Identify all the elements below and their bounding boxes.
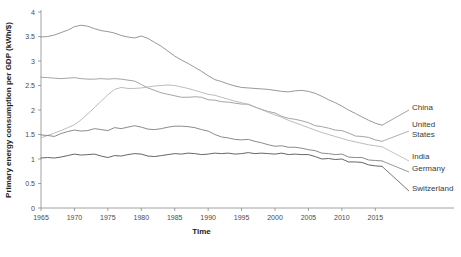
y-tick-label: 2: [31, 107, 35, 114]
series-line-india: [41, 85, 382, 147]
series-label-india: India: [412, 152, 430, 161]
x-tick-label: 1985: [167, 214, 183, 221]
y-tick-label: 4: [31, 9, 35, 16]
y-tick-label: 3.5: [25, 33, 35, 40]
series-leader-india: [382, 147, 409, 161]
x-tick-label: 1980: [134, 214, 150, 221]
y-tick-label: 1: [31, 156, 35, 163]
x-tick-label: 2015: [368, 214, 384, 221]
figure-caption: [8, 246, 448, 257]
x-axis-title: Time: [192, 227, 211, 236]
x-tick-label: 1970: [67, 214, 83, 221]
series-line-germany: [41, 126, 382, 161]
x-tick-label: 1995: [234, 214, 250, 221]
y-tick-label: 2.5: [25, 82, 35, 89]
figure-container: 00.511.522.533.5419651970197519801985199…: [0, 0, 461, 257]
series-label-switzerland: Switzerland: [412, 184, 453, 193]
series-label-united-states: States: [412, 130, 435, 139]
x-tick-label: 2010: [334, 214, 350, 221]
series-leader-china: [382, 110, 409, 125]
series-label-china: China: [412, 103, 433, 112]
x-tick-label: 2005: [301, 214, 317, 221]
series-line-switzerland: [41, 153, 382, 167]
series-label-germany: Germany: [412, 164, 445, 173]
y-axis-title: Primary energy consumption per GDP (kWh/…: [4, 22, 13, 198]
series-label-united-states: United: [412, 120, 435, 129]
x-tick-label: 2000: [267, 214, 283, 221]
x-tick-label: 1990: [200, 214, 216, 221]
x-tick-label: 1975: [100, 214, 116, 221]
y-tick-label: 0: [31, 205, 35, 212]
y-tick-label: 3: [31, 58, 35, 65]
line-chart: 00.511.522.533.5419651970197519801985199…: [0, 0, 461, 257]
x-tick-label: 1965: [33, 214, 49, 221]
y-tick-label: 1.5: [25, 131, 35, 138]
series-leader-united-states: [382, 131, 409, 141]
y-tick-label: 0.5: [25, 180, 35, 187]
